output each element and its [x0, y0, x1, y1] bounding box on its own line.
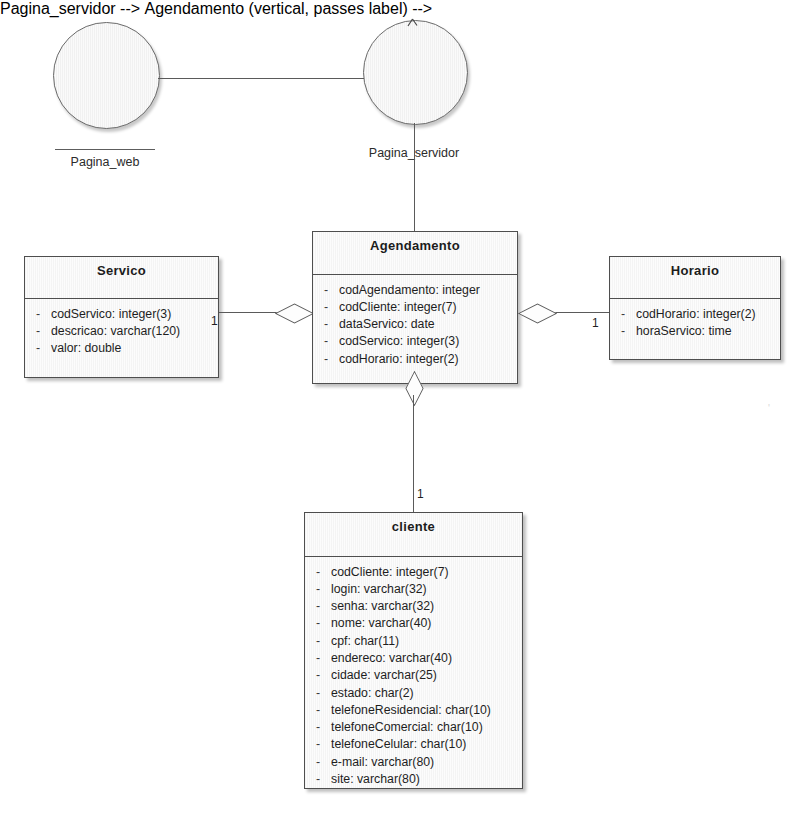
attribute-text: telefoneCelular: char(10): [331, 738, 466, 750]
visibility-marker: -: [305, 635, 331, 647]
attribute-text: endereco: varchar(40): [331, 652, 452, 664]
lollipop-circle-pagina-web[interactable]: [53, 22, 160, 129]
attribute-text: codCliente: integer(7): [331, 566, 449, 578]
attribute-text: telefoneResidencial: char(10): [331, 704, 491, 716]
interface-label-pagina-web: Pagina_web: [45, 155, 165, 169]
attribute-row: - telefoneResidencial: char(10): [305, 701, 522, 718]
class-box-servico[interactable]: Servico - codServico: integer(3) - descr…: [24, 256, 219, 378]
attribute-text: valor: double: [51, 342, 121, 354]
attribute-row: - codHorario: integer(2): [313, 350, 517, 367]
visibility-marker: -: [313, 318, 339, 330]
attribute-row: - dataServico: date: [313, 316, 517, 333]
attribute-text: login: varchar(32): [331, 583, 427, 595]
attribute-text: codCliente: integer(7): [339, 301, 457, 313]
attribute-text: descricao: varchar(120): [51, 325, 180, 337]
class-attributes-cliente: - codCliente: integer(7) - login: varcha…: [305, 557, 522, 795]
attribute-row: - cidade: varchar(25): [305, 667, 522, 684]
visibility-marker: -: [313, 301, 339, 313]
interface-pagina-servidor[interactable]: Pagina_servidor: [363, 20, 483, 160]
attribute-row: - codCliente: integer(7): [313, 298, 517, 315]
arrowhead-icon: [407, 18, 418, 27]
attribute-row: - telefoneComercial: char(10): [305, 719, 522, 736]
class-box-horario[interactable]: Horario - codHorario: integer(2) - horaS…: [609, 256, 781, 360]
attribute-text: horaServico: time: [636, 325, 732, 337]
attribute-text: codServico: integer(3): [339, 335, 459, 347]
attribute-row: - cpf: char(11): [305, 632, 522, 649]
scan-artifact: ': [768, 403, 770, 414]
visibility-marker: -: [305, 721, 331, 733]
attribute-text: cpf: char(11): [331, 635, 399, 647]
attribute-text: site: varchar(80): [331, 773, 420, 785]
class-attributes-horario: - codHorario: integer(2) - horaServico: …: [610, 299, 780, 347]
class-title-servico: Servico: [25, 257, 218, 278]
aggregation-diamond-servico: [275, 303, 314, 323]
attribute-text: nome: varchar(40): [331, 617, 431, 629]
attribute-text: estado: char(2): [331, 687, 414, 699]
uml-class-diagram-canvas: Pagina_web Pagina_servidor Pagina_servid…: [0, 0, 802, 827]
interface-pagina-web[interactable]: Pagina_web: [53, 22, 173, 157]
attribute-text: codServico: integer(3): [51, 308, 171, 320]
visibility-marker: -: [610, 308, 636, 320]
pagina-web-baseline: [55, 149, 155, 150]
visibility-marker: -: [305, 669, 331, 681]
multiplicity-cliente: 1: [417, 487, 424, 501]
visibility-marker: -: [313, 335, 339, 347]
attribute-row: - horaServico: time: [610, 322, 780, 339]
visibility-marker: -: [305, 652, 331, 664]
visibility-marker: -: [305, 600, 331, 612]
attribute-row: - site: varchar(80): [305, 771, 522, 788]
class-title-cliente: cliente: [305, 513, 522, 534]
attribute-text: codHorario: integer(2): [339, 353, 459, 365]
attribute-text: dataServico: date: [339, 318, 435, 330]
class-title-agendamento: Agendamento: [313, 232, 517, 253]
visibility-marker: -: [313, 284, 339, 296]
attribute-row: - codCliente: integer(7): [305, 563, 522, 580]
visibility-marker: -: [305, 704, 331, 716]
connector-pagina-web-to-pagina-servidor: [158, 78, 364, 79]
class-box-cliente[interactable]: cliente - codCliente: integer(7) - login…: [304, 512, 523, 789]
attribute-text: senha: varchar(32): [331, 600, 434, 612]
visibility-marker: -: [305, 773, 331, 785]
attribute-text: e-mail: varchar(80): [331, 756, 434, 768]
attribute-row: - codAgendamento: integer: [313, 281, 517, 298]
attribute-row: - descricao: varchar(120): [25, 322, 218, 339]
multiplicity-servico: 1: [211, 314, 218, 328]
visibility-marker: -: [305, 566, 331, 578]
visibility-marker: -: [313, 353, 339, 365]
visibility-marker: -: [305, 687, 331, 699]
attribute-row: - telefoneCelular: char(10): [305, 736, 522, 753]
class-box-agendamento[interactable]: Agendamento - codAgendamento: integer - …: [312, 231, 518, 384]
visibility-marker: -: [305, 617, 331, 629]
attribute-text: codHorario: integer(2): [636, 308, 756, 320]
visibility-marker: -: [25, 342, 51, 354]
attribute-row: - senha: varchar(32): [305, 598, 522, 615]
attribute-row: - login: varchar(32): [305, 580, 522, 597]
lollipop-circle-pagina-servidor[interactable]: [363, 20, 468, 125]
multiplicity-horario: 1: [592, 316, 599, 330]
class-attributes-agendamento: - codAgendamento: integer - codCliente: …: [313, 275, 517, 374]
visibility-marker: -: [305, 756, 331, 768]
attribute-row: - codHorario: integer(2): [610, 305, 780, 322]
visibility-marker: -: [305, 583, 331, 595]
association-line-agendamento-cliente: [413, 395, 414, 512]
attribute-row: - endereco: varchar(40): [305, 649, 522, 666]
class-title-horario: Horario: [610, 257, 780, 278]
attribute-row: - nome: varchar(40): [305, 615, 522, 632]
aggregation-diamond-horario: [518, 303, 557, 323]
attribute-text: codAgendamento: integer: [339, 284, 480, 296]
attribute-row: - e-mail: varchar(80): [305, 753, 522, 770]
visibility-marker: -: [25, 325, 51, 337]
attribute-row: - valor: double: [25, 340, 218, 357]
attribute-text: telefoneComercial: char(10): [331, 721, 483, 733]
connector-pagina-servidor-to-agendamento: [414, 123, 415, 231]
visibility-marker: -: [305, 738, 331, 750]
visibility-marker: -: [25, 308, 51, 320]
attribute-row: - codServico: integer(3): [313, 333, 517, 350]
attribute-row: - estado: char(2): [305, 684, 522, 701]
attribute-row: - codServico: integer(3): [25, 305, 218, 322]
class-attributes-servico: - codServico: integer(3) - descricao: va…: [25, 299, 218, 364]
visibility-marker: -: [610, 325, 636, 337]
attribute-text: cidade: varchar(25): [331, 669, 437, 681]
